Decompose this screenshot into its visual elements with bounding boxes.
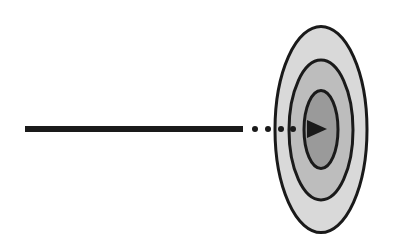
target-diagram xyxy=(0,0,394,245)
arrow-trail-dot xyxy=(252,126,258,132)
arrow-trail-dot xyxy=(265,126,271,132)
arrow-trail-dot xyxy=(278,126,284,132)
arrow-trail-dot xyxy=(290,126,296,132)
